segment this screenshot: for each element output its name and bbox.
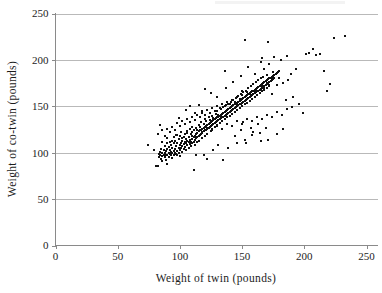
data-point: [234, 135, 236, 137]
data-point: [203, 154, 205, 156]
data-point: [161, 160, 163, 162]
data-point: [229, 115, 231, 117]
data-point: [251, 90, 253, 92]
y-axis-title: Weight of co-twin (pounds): [6, 61, 19, 197]
data-point: [198, 124, 200, 126]
scatter-chart: 050100150200250 050100150200250 Weight o…: [0, 0, 382, 293]
data-point: [326, 90, 328, 92]
data-point: [189, 128, 191, 130]
data-point: [224, 118, 226, 120]
data-point: [216, 105, 218, 107]
data-point: [194, 119, 196, 121]
data-point: [199, 126, 201, 128]
x-tick-label-0: 0: [53, 250, 59, 262]
data-point: [191, 135, 193, 137]
data-point: [158, 153, 160, 155]
data-point: [194, 139, 196, 141]
data-point: [261, 90, 263, 92]
data-point: [271, 116, 273, 118]
x-tick-label-250: 250: [358, 250, 375, 262]
data-point: [268, 84, 270, 86]
data-point: [183, 148, 185, 150]
y-tick-label-200: 200: [32, 54, 49, 66]
data-point: [181, 120, 183, 122]
data-point: [194, 144, 196, 146]
data-point: [165, 159, 167, 161]
data-point: [260, 140, 262, 142]
x-tick-label-50: 50: [112, 250, 124, 262]
data-point: [219, 122, 221, 124]
data-point: [282, 82, 284, 84]
data-point: [163, 154, 165, 156]
data-point: [179, 135, 181, 137]
data-point: [164, 156, 166, 158]
data-point: [181, 145, 183, 147]
data-point: [252, 131, 254, 133]
data-point: [188, 141, 190, 143]
data-point: [194, 112, 196, 114]
data-point: [236, 142, 238, 144]
data-point: [157, 133, 159, 135]
data-point: [236, 109, 238, 111]
data-point: [173, 154, 175, 156]
data-point: [216, 125, 218, 127]
data-point: [185, 142, 187, 144]
data-point: [246, 118, 248, 120]
data-point: [268, 63, 270, 65]
data-point: [241, 94, 243, 96]
data-point: [242, 91, 244, 93]
data-point: [191, 126, 193, 128]
data-point: [181, 137, 183, 139]
data-point: [176, 154, 178, 156]
data-point: [166, 142, 168, 144]
data-point: [247, 87, 249, 89]
data-point: [215, 113, 217, 115]
data-point: [174, 140, 176, 142]
data-point: [278, 70, 280, 72]
x-tick-label-150: 150: [234, 250, 251, 262]
data-point: [256, 116, 258, 118]
data-point: [164, 152, 166, 154]
data-point: [191, 131, 193, 133]
data-point: [166, 148, 168, 150]
data-point: [266, 74, 268, 76]
data-point: [190, 133, 192, 135]
data-point: [266, 114, 268, 116]
data-point: [179, 149, 181, 151]
data-point: [161, 129, 163, 131]
data-point: [217, 144, 219, 146]
data-point: [263, 68, 265, 70]
data-point: [194, 135, 196, 137]
data-point: [244, 103, 246, 105]
data-point: [254, 91, 256, 93]
data-point: [184, 123, 186, 125]
data-point: [241, 123, 243, 125]
y-tick-label-250: 250: [32, 7, 49, 19]
data-point: [166, 128, 168, 130]
x-tick-label-200: 200: [296, 250, 313, 262]
data-point: [265, 127, 267, 129]
y-tick-label-100: 100: [32, 147, 49, 159]
data-point: [173, 142, 175, 144]
data-point: [281, 114, 283, 116]
data-point: [333, 37, 335, 39]
data-point: [198, 140, 200, 142]
data-point: [286, 55, 288, 57]
data-point: [190, 141, 192, 143]
data-point: [201, 112, 203, 114]
data-point: [161, 141, 163, 143]
x-axis-title: Weight of twin (pounds): [156, 272, 277, 285]
data-point: [256, 87, 258, 89]
data-point: [239, 107, 241, 109]
y-tick-label-0: 0: [43, 239, 49, 251]
data-point: [205, 120, 207, 122]
data-point: [211, 129, 213, 131]
data-point: [193, 141, 195, 143]
data-point: [178, 117, 180, 119]
data-point: [169, 149, 171, 151]
data-point: [267, 41, 269, 43]
data-point: [181, 140, 183, 142]
data-point: [175, 145, 177, 147]
data-point: [204, 118, 206, 120]
data-point: [159, 151, 161, 153]
